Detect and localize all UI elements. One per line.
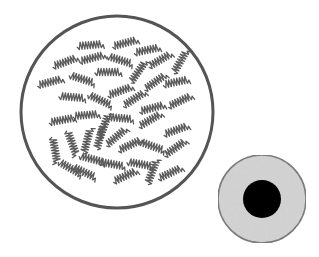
small-cell-nucleus [243, 180, 281, 218]
small-cell [218, 155, 306, 243]
cell-diagram [0, 0, 319, 257]
diagram-stage: large cell with coiled strands small cel… [0, 0, 319, 257]
large-cell [21, 16, 213, 208]
